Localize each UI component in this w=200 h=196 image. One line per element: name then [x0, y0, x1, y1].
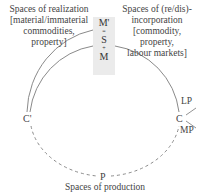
label-line: Spaces of realization: [0, 4, 98, 15]
node-p: P: [100, 171, 106, 182]
label-line: Spaces of (re/dis)-: [112, 4, 200, 15]
label-line: incorporation: [112, 15, 200, 26]
label-line: property,: [112, 37, 200, 48]
arc-production-left: [31, 126, 97, 176]
line-lp: [186, 108, 196, 115]
money-stack-box: M' = S + M: [93, 17, 115, 75]
node-c-prime: C': [23, 113, 31, 124]
label-spaces-of-realization: Spaces of realization [material/immateri…: [0, 4, 98, 48]
arc-production-right: [111, 126, 179, 176]
stack-s: S: [93, 34, 115, 45]
label-line: [commodity,: [112, 26, 200, 37]
label-spaces-of-production: Spaces of production: [50, 182, 160, 193]
node-lp: LP: [181, 96, 192, 106]
label-line: [material/immaterial: [0, 15, 98, 26]
label-line: commodities,: [0, 26, 98, 37]
label-line: labour markets]: [112, 48, 200, 59]
label-line: property]: [0, 37, 98, 48]
label-spaces-of-incorporation: Spaces of (re/dis)- incorporation [commo…: [112, 4, 200, 59]
stack-m: M: [93, 51, 115, 62]
stack-m-prime: M': [93, 17, 115, 28]
node-c: C: [176, 113, 183, 124]
arc-realization-outer: [30, 46, 93, 112]
node-mp: MP: [180, 125, 194, 135]
